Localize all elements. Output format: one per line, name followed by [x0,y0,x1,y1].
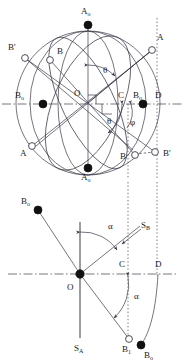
B0-upperleft-marker [34,206,42,214]
label-O-center: O [74,88,81,98]
label-A0-bottom: Ao [81,172,91,183]
label-theta-upper: θ [103,65,107,75]
label-B0-bottom: Bo [144,350,153,361]
label-phi: φ [130,117,135,127]
label-D-lower: D [155,259,162,269]
label-alpha-upper: α [108,221,113,231]
label-B0-left: Bo [15,90,24,101]
label-alpha-lower: α [134,291,139,301]
label-Bprime-bottom: B' [163,148,171,158]
label-B-left: B [57,46,63,56]
label-A-right: A [157,32,164,42]
alpha-lower-arc [114,276,129,318]
B0-left-marker [39,100,47,108]
ray-B0-through-O [38,210,80,274]
label-SB: SB [141,220,150,231]
lower-labels: Bo α SB C D O α SA B1 Bo [21,196,162,361]
SB-leader-arrow [122,229,141,244]
label-O-lower: O [67,282,74,292]
label-D-upper: D [155,90,162,100]
label-C-lower: C [119,259,125,269]
arc-D-to-B0bottom [141,274,158,345]
figure-root: Ao A B' B Bo O C Bo D θ θ φ B B' A Ao Bo… [0,0,184,362]
label-A0-top: Ao [81,6,91,17]
B1-bottom-marker [126,336,133,343]
label-B-bottom: B [120,151,126,161]
upper-panel-group [2,18,182,183]
label-B1-bottom: B1 [122,344,131,355]
label-theta-lower: θ [107,116,111,126]
Bprime-left-marker [22,55,29,62]
ray-O-to-B1 [80,274,129,339]
diagram-canvas: Ao A B' B Bo O C Bo D θ θ φ B B' A Ao Bo… [0,0,184,362]
A-bottomleft-marker [29,143,36,150]
theta-upper-arc [88,65,115,76]
B0-right-marker [139,100,147,108]
label-C-upper: C [118,90,124,100]
ray-O-to-SB [80,226,140,274]
Bprime-bottom-marker [152,149,159,156]
B-bottom-marker [132,152,139,159]
upper-labels: Ao A B' B Bo O C Bo D θ θ φ B B' A Ao [8,6,171,183]
label-SA: SA [74,343,84,354]
right-angle-marker-lower [102,104,112,114]
lower-panel-group [8,182,178,345]
label-Bprime-left: B' [8,42,16,52]
A0-top-marker [84,21,92,29]
B0-bottom-marker [137,341,145,349]
B-left-marker [47,57,54,64]
label-B0-upperleft: Bo [21,196,30,207]
A0-bottom-marker [84,164,92,172]
label-B0-right: Bo [133,90,142,101]
A-right-marker [149,47,156,54]
label-A-bottomleft: A [20,148,27,158]
alpha-upper-arc [80,232,117,250]
O-lower-marker [76,270,84,278]
